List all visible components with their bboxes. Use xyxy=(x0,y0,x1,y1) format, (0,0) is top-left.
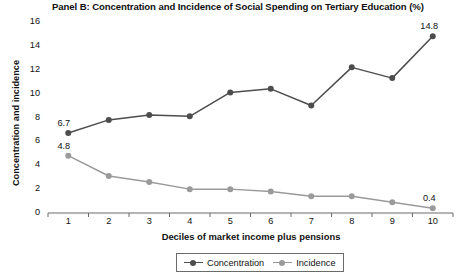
data-point-incidence-8 xyxy=(349,193,355,199)
data-point-concentration-2 xyxy=(106,117,112,123)
data-point-concentration-6 xyxy=(268,86,274,92)
data-point-concentration-10 xyxy=(430,33,436,39)
x-axis-title: Deciles of market income plus pensions xyxy=(48,231,454,242)
data-point-incidence-2 xyxy=(106,173,112,179)
legend-marker-concentration xyxy=(184,258,203,267)
chart-container: Panel B: Concentration and Incidence of … xyxy=(0,0,464,280)
data-label-incidence-1: 4.8 xyxy=(57,141,70,151)
data-point-incidence-3 xyxy=(146,179,152,185)
legend-marker-incidence xyxy=(273,258,292,267)
data-point-concentration-8 xyxy=(349,64,355,70)
data-label-incidence-10: 0.4 xyxy=(423,193,436,203)
legend-label-incidence: Incidence xyxy=(296,258,335,268)
data-label-concentration-1: 6.7 xyxy=(57,118,70,128)
data-point-concentration-3 xyxy=(146,112,152,118)
data-label-concentration-10: 14.8 xyxy=(420,21,438,31)
legend-label-concentration: Concentration xyxy=(207,258,264,268)
data-point-concentration-4 xyxy=(187,113,193,119)
legend-item-incidence[interactable]: Incidence xyxy=(273,258,335,268)
data-point-incidence-7 xyxy=(308,193,314,199)
data-point-incidence-9 xyxy=(389,199,395,205)
data-point-concentration-9 xyxy=(389,75,395,81)
chart-legend: Concentration Incidence xyxy=(176,253,344,272)
series-line-incidence xyxy=(68,156,433,209)
data-point-concentration-5 xyxy=(227,89,233,95)
data-point-incidence-5 xyxy=(227,186,233,192)
data-point-incidence-1 xyxy=(65,153,71,159)
data-point-incidence-6 xyxy=(268,189,274,195)
series-line-concentration xyxy=(68,36,433,133)
data-point-concentration-7 xyxy=(308,103,314,109)
legend-item-concentration[interactable]: Concentration xyxy=(184,258,264,268)
data-point-incidence-10 xyxy=(430,205,436,211)
data-point-concentration-1 xyxy=(65,130,71,136)
data-point-incidence-4 xyxy=(187,186,193,192)
